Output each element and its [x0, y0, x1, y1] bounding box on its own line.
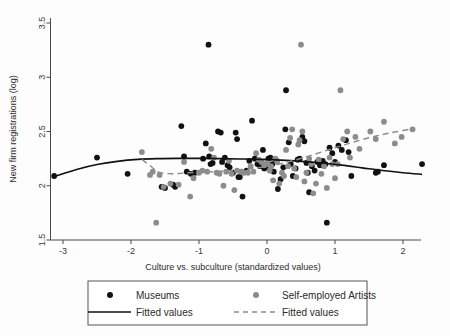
data-point	[324, 185, 330, 191]
data-point	[210, 160, 216, 166]
data-point	[287, 135, 293, 141]
legend-marker-dot	[107, 292, 113, 298]
data-point	[234, 136, 240, 142]
x-tick-label: -2	[127, 246, 135, 256]
data-point	[249, 118, 255, 124]
data-point	[211, 155, 217, 161]
data-point	[367, 129, 373, 135]
data-point	[275, 186, 281, 192]
x-tick-label: 1	[332, 246, 337, 256]
data-point	[392, 141, 398, 147]
data-points-layer	[51, 42, 425, 226]
legend-label: Museums	[136, 290, 179, 301]
data-point	[319, 171, 325, 177]
data-point	[302, 179, 308, 185]
data-point	[327, 155, 333, 161]
x-tick-label: -1	[195, 246, 203, 256]
x-axis-title: Culture vs. subculture (standardized val…	[145, 262, 321, 272]
data-point	[181, 159, 187, 165]
data-point	[125, 171, 131, 177]
data-point	[353, 134, 359, 140]
data-point	[298, 42, 304, 48]
data-point	[347, 155, 353, 161]
data-point	[297, 137, 303, 143]
data-point	[260, 147, 266, 153]
data-point	[153, 220, 159, 226]
x-tick-label: 0	[264, 246, 269, 256]
data-point	[253, 150, 259, 156]
fit-line-artists	[142, 129, 413, 174]
data-point	[304, 170, 310, 176]
data-point	[191, 175, 197, 181]
data-point	[348, 173, 354, 179]
data-point	[233, 130, 239, 136]
data-point	[208, 146, 214, 152]
legend-layer[interactable]: MuseumsSelf-employed ArtistsFitted value…	[88, 281, 376, 325]
data-point	[283, 147, 289, 153]
data-point	[381, 119, 387, 125]
legend-marker-dot	[253, 292, 259, 298]
x-tick-label: 2	[400, 246, 405, 256]
data-point	[150, 169, 156, 175]
series-self-employed-artists	[139, 42, 415, 226]
y-tick-label: 3.5	[37, 17, 47, 30]
data-point	[270, 177, 276, 183]
fit-lines-layer	[54, 129, 422, 177]
data-point	[291, 165, 297, 171]
data-point	[324, 220, 330, 226]
data-point	[221, 183, 227, 189]
data-point	[161, 184, 167, 190]
data-point	[340, 136, 346, 142]
y-tick-label: 2	[37, 183, 47, 188]
legend-label: Self-employed Artists	[282, 290, 376, 301]
data-point	[381, 162, 387, 168]
data-point	[168, 181, 174, 187]
data-point	[203, 141, 209, 147]
data-point	[285, 163, 291, 169]
scatter-plot-canvas: 1.522.533.5-3-2-1012Culture vs. subcultu…	[0, 0, 450, 336]
data-point	[251, 169, 257, 175]
y-tick-label: 2.5	[37, 125, 47, 138]
data-point	[283, 87, 289, 93]
fit-line-museums	[54, 158, 422, 176]
data-point	[94, 155, 100, 161]
data-point	[223, 169, 229, 175]
data-point	[339, 147, 345, 153]
data-point	[399, 134, 405, 140]
data-point	[139, 149, 145, 155]
legend-label: Fitted values	[136, 307, 193, 318]
data-point	[245, 170, 251, 176]
y-axis-title: New firm registrations (log)	[8, 75, 18, 183]
data-point	[237, 174, 243, 180]
data-point	[310, 190, 316, 196]
data-point	[281, 173, 287, 179]
data-point	[313, 181, 319, 187]
data-point	[344, 129, 350, 135]
data-point	[293, 174, 299, 180]
data-point	[218, 130, 224, 136]
chart-figure: 1.522.533.5-3-2-1012Culture vs. subcultu…	[0, 0, 450, 336]
data-point	[338, 87, 344, 93]
legend-box	[88, 281, 367, 325]
data-point	[187, 194, 193, 200]
data-point	[240, 194, 246, 200]
y-tick-label: 3	[37, 75, 47, 80]
data-point	[276, 181, 282, 187]
data-point	[312, 168, 318, 174]
data-point	[206, 42, 212, 48]
data-point	[231, 187, 237, 193]
data-point	[229, 171, 235, 177]
legend-label: Fitted values	[282, 307, 339, 318]
data-point	[299, 129, 305, 135]
data-point	[176, 182, 182, 188]
data-point	[332, 175, 338, 181]
data-point	[419, 161, 425, 167]
data-point	[289, 126, 295, 132]
data-point	[346, 149, 352, 155]
data-point	[357, 146, 363, 152]
data-point	[178, 123, 184, 129]
y-tick-label: 1.5	[37, 234, 47, 247]
x-tick-label: -3	[59, 246, 67, 256]
data-point	[282, 126, 288, 132]
